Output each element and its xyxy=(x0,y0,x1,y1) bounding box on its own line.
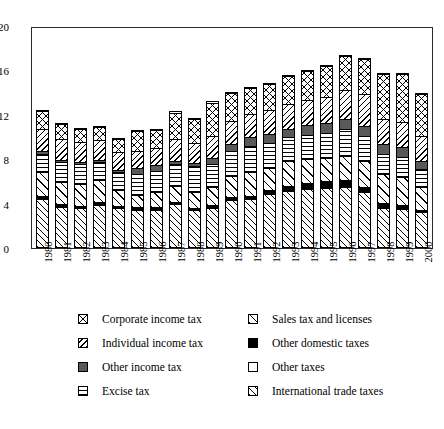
x-axis-tick-label: 1994 xyxy=(308,242,321,263)
bar-segment xyxy=(302,71,313,100)
legend-label: Corporate income tax xyxy=(102,313,202,325)
bar-column xyxy=(206,28,219,248)
bar-segment xyxy=(340,119,351,130)
x-axis-tick-label: 1998 xyxy=(384,242,397,263)
bar-column xyxy=(150,28,163,248)
x-axis-label-wrap: 1993 xyxy=(283,250,296,306)
x-axis-tick-label: 2000 xyxy=(422,242,435,263)
x-axis-label-wrap: 1982 xyxy=(73,250,86,306)
bar-segment xyxy=(226,121,237,144)
bar-segment xyxy=(340,56,351,90)
bar-column xyxy=(415,28,428,248)
y-axis-tick-label: 8 xyxy=(0,155,9,166)
bar-column xyxy=(377,28,390,248)
bar-segment xyxy=(340,156,351,180)
bar-column xyxy=(244,28,257,248)
bar-segment xyxy=(359,187,370,194)
bar-segment xyxy=(321,97,332,123)
stacked-bar xyxy=(320,65,333,248)
legend-label: Other income tax xyxy=(102,361,182,373)
bar-segment xyxy=(264,143,275,168)
x-axis-tick-label: 1988 xyxy=(194,242,207,263)
x-axis-tick-label: 1987 xyxy=(175,242,188,263)
bar-column xyxy=(112,28,125,248)
bar-segment xyxy=(321,123,332,133)
bar-segment xyxy=(113,172,124,191)
bar-segment xyxy=(416,169,427,187)
bar-segment xyxy=(151,130,162,147)
bar-column xyxy=(396,28,409,248)
bar-segment xyxy=(245,88,256,114)
x-axis-tick-label: 1982 xyxy=(80,242,93,263)
x-axis-label-wrap: 1995 xyxy=(321,250,334,306)
bar-segment xyxy=(359,193,370,247)
bar-segment xyxy=(302,125,313,135)
x-axis-label-wrap: 1987 xyxy=(168,250,181,306)
bar-column xyxy=(74,28,87,248)
stacked-bar xyxy=(282,75,295,248)
bar-segment xyxy=(75,164,86,184)
bar-segment xyxy=(321,66,332,97)
x-axis-label-wrap: 1981 xyxy=(54,250,67,306)
bar-segment xyxy=(359,136,370,161)
bar-segment xyxy=(113,152,124,169)
legend-swatch xyxy=(248,338,258,348)
stacked-bar xyxy=(396,73,409,248)
y-axis-tick-label: 16 xyxy=(0,66,9,77)
legend-item: Sales tax and licenses xyxy=(248,312,372,326)
bar-segment xyxy=(245,146,256,172)
bar-column xyxy=(131,28,144,248)
x-axis-label-wrap: 1997 xyxy=(359,250,372,306)
stacked-bar xyxy=(415,93,428,248)
bar-segment xyxy=(416,161,427,170)
bar-segment xyxy=(207,164,218,187)
bar-segment xyxy=(378,154,389,174)
bar-column xyxy=(301,28,314,248)
legend-item: Excise tax xyxy=(78,384,150,398)
stacked-bar xyxy=(93,126,106,248)
x-axis-label-wrap: 1986 xyxy=(149,250,162,306)
bar-segment xyxy=(75,142,86,162)
y-axis-tick-label: 0 xyxy=(0,244,9,255)
x-axis-label-wrap: 1999 xyxy=(397,250,410,306)
x-axis-tick-label: 1991 xyxy=(251,242,264,263)
bar-segment xyxy=(207,187,218,206)
bar-segment xyxy=(245,137,256,146)
bar-segment xyxy=(170,113,181,139)
legend-item: Individual income tax xyxy=(78,336,203,350)
bar-segment xyxy=(359,94,370,126)
bar-segment xyxy=(94,162,105,181)
bar-segment xyxy=(132,131,143,151)
bars-container xyxy=(32,28,432,248)
x-axis-tick-label: 1985 xyxy=(137,242,150,263)
bar-column xyxy=(93,28,106,248)
x-axis-tick-label: 1980 xyxy=(42,242,55,263)
stacked-bar xyxy=(301,70,314,248)
bar-segment xyxy=(245,172,256,195)
legend-swatch xyxy=(78,338,88,348)
legend-item: Other domestic taxes xyxy=(248,336,369,350)
stacked-bar xyxy=(112,138,125,248)
bar-segment xyxy=(359,161,370,186)
bar-segment xyxy=(264,134,275,143)
bar-segment xyxy=(359,59,370,94)
x-axis-tick-label: 1989 xyxy=(213,242,226,263)
bar-segment xyxy=(75,184,86,206)
bar-segment xyxy=(283,104,294,128)
bar-segment xyxy=(264,195,275,247)
bar-segment xyxy=(321,133,332,158)
bar-segment xyxy=(132,174,143,195)
bar-segment xyxy=(397,122,408,147)
bar-segment xyxy=(94,180,105,202)
legend-swatch xyxy=(78,314,88,324)
bar-segment xyxy=(170,164,181,186)
bar-segment xyxy=(151,148,162,165)
bar-segment xyxy=(113,190,124,205)
bar-segment xyxy=(416,136,427,160)
bar-segment xyxy=(37,154,48,172)
bar-segment xyxy=(340,129,351,155)
stacked-bar xyxy=(169,111,182,248)
x-axis-tick-label: 1992 xyxy=(270,242,283,263)
bar-segment xyxy=(37,111,48,129)
legend-label: Sales tax and licenses xyxy=(272,313,372,325)
